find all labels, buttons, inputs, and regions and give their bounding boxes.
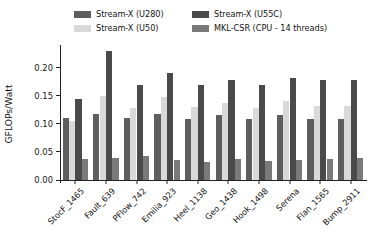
y-axis-tick-mark <box>56 151 60 152</box>
plot-area: 0.000.050.100.150.20StocF_1465Fault_639P… <box>60 48 366 180</box>
bar <box>235 159 241 180</box>
y-axis-tick: 0.20 <box>34 63 60 73</box>
bar <box>143 156 149 180</box>
legend-entry[interactable]: Stream-X (U55C) <box>192 7 362 21</box>
y-axis-tick-mark <box>56 67 60 68</box>
legend-label: Stream-X (U280) <box>96 10 164 19</box>
y-axis-tick-label: 0.05 <box>34 147 53 157</box>
legend-entry[interactable]: Stream-X (U50) <box>74 21 192 35</box>
x-axis-tick-mark <box>258 180 259 184</box>
x-axis-tick-mark <box>289 180 290 184</box>
y-axis-tick-mark <box>56 180 60 181</box>
bar <box>265 161 271 180</box>
bar <box>204 162 210 180</box>
chart-legend: Stream-X (U280)Stream-X (U55C)Stream-X (… <box>74 7 362 35</box>
x-axis-tick-mark <box>197 180 198 184</box>
y-axis-tick: 0.15 <box>34 91 60 101</box>
x-axis-tick-label: Serena <box>273 186 300 213</box>
legend-label: Stream-X (U50) <box>96 24 158 33</box>
legend-swatch-icon <box>74 11 91 18</box>
legend-label: MKL-CSR (CPU - 14 threads) <box>214 24 327 33</box>
y-axis-tick-label: 0.10 <box>34 119 53 129</box>
y-axis-tick-mark <box>56 123 60 124</box>
legend-entry[interactable]: Stream-X (U280) <box>74 7 192 21</box>
y-axis-tick-label: 0.00 <box>34 175 53 185</box>
bar <box>174 160 180 180</box>
y-axis-tick: 0.10 <box>34 119 60 129</box>
y-axis-tick-mark <box>56 95 60 96</box>
x-axis-tick-mark <box>350 180 351 184</box>
bar <box>357 158 363 180</box>
legend-swatch-icon <box>192 11 209 18</box>
x-axis-tick-mark <box>136 180 137 184</box>
x-axis-tick-mark <box>228 180 229 184</box>
legend-swatch-icon <box>74 25 91 32</box>
bar-chart-figure: Stream-X (U280)Stream-X (U55C)Stream-X (… <box>0 0 373 252</box>
x-axis-tick-label: StocF_1465 <box>46 186 86 226</box>
legend-swatch-icon <box>192 25 209 32</box>
x-axis-tick-mark <box>75 180 76 184</box>
x-axis-tick-mark <box>320 180 321 184</box>
legend-label: Stream-X (U55C) <box>214 10 282 19</box>
y-axis-tick-label: 0.15 <box>34 91 53 101</box>
x-axis-tick-mark <box>105 180 106 184</box>
x-axis-tick-mark <box>167 180 168 184</box>
bar <box>327 159 333 180</box>
y-axis-title: GFLOPs/Watt <box>3 84 14 143</box>
legend-entry[interactable]: MKL-CSR (CPU - 14 threads) <box>192 21 362 35</box>
bar <box>296 160 302 180</box>
y-axis-tick-label: 0.20 <box>34 63 53 73</box>
y-axis-tick: 0.00 <box>34 175 60 185</box>
bar <box>82 159 88 180</box>
y-axis-tick: 0.05 <box>34 147 60 157</box>
bar <box>112 158 118 180</box>
